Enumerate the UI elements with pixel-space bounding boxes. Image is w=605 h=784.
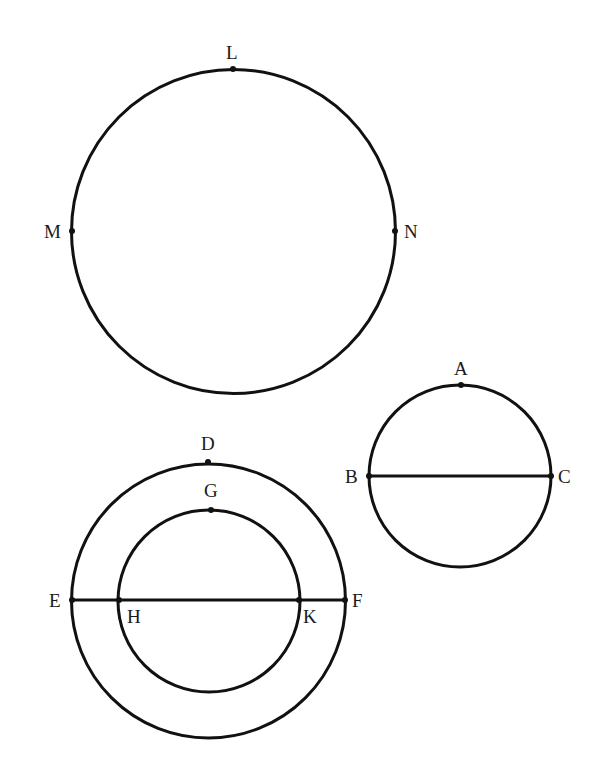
label-b: B [345, 466, 358, 487]
point-l [230, 66, 236, 72]
point-m [69, 228, 75, 234]
circle-abc: A B C [345, 358, 571, 567]
point-a [458, 382, 464, 388]
point-n [392, 228, 398, 234]
label-n: N [404, 221, 418, 242]
label-c: C [558, 466, 571, 487]
label-h: H [127, 606, 141, 627]
label-k: K [303, 606, 317, 627]
label-g: G [204, 480, 218, 501]
label-a: A [454, 358, 468, 379]
label-m: M [44, 221, 61, 242]
point-b [366, 473, 372, 479]
point-c [548, 473, 554, 479]
point-g [208, 507, 214, 513]
label-d: D [201, 433, 215, 454]
point-d [205, 459, 211, 465]
label-e: E [49, 590, 61, 611]
label-f: F [352, 590, 363, 611]
geometry-diagram: L M N A B C D E F G H K [0, 0, 605, 784]
circle-ghk: G H K [116, 480, 317, 692]
label-l: L [226, 42, 238, 63]
circle-lmn: L M N [44, 42, 418, 394]
